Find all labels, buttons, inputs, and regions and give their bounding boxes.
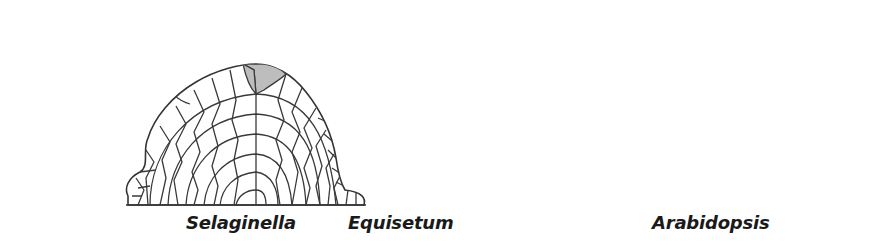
label-selaginella: Selaginella	[186, 212, 296, 233]
label-arabidopsis: Arabidopsis	[652, 212, 770, 233]
label-equisetum: Equisetum	[348, 212, 453, 233]
selaginella-meristem	[126, 64, 366, 205]
